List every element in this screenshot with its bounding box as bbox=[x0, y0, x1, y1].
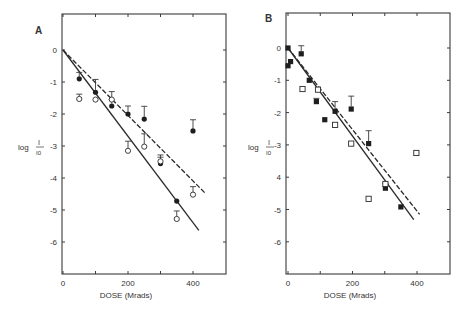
data-point-filled-square bbox=[285, 45, 290, 50]
data-point-open-square bbox=[332, 122, 337, 127]
y-axis-label-numerator: I bbox=[268, 139, 270, 146]
y-axis-label-numerator: I bbox=[38, 139, 40, 146]
y-axis-label-log: log bbox=[248, 143, 259, 152]
data-point-open-circle bbox=[158, 159, 163, 164]
data-point-filled-square bbox=[349, 106, 354, 111]
figure-svg: 02004000-1-2-3-4-5-6ADOSE (Mrads)logII0 … bbox=[0, 0, 469, 310]
y-axis-label-log: log bbox=[18, 143, 29, 152]
data-point-filled-square bbox=[307, 78, 312, 83]
x-tick-label: 0 bbox=[286, 279, 291, 288]
y-tick-label: 0 bbox=[277, 44, 282, 53]
y-tick-label: -6 bbox=[50, 238, 58, 247]
data-point-filled-circle bbox=[77, 76, 82, 81]
solid-fit-line bbox=[63, 50, 199, 230]
dashed-fit-line bbox=[63, 50, 205, 193]
solid-fit-line bbox=[288, 48, 414, 220]
y-axis-label-denominator: I0 bbox=[266, 150, 272, 156]
y-axis-label-denominator: I0 bbox=[36, 150, 42, 156]
y-tick-label: -1 bbox=[274, 76, 282, 85]
data-point-filled-square bbox=[332, 109, 337, 114]
x-tick-label: 200 bbox=[346, 279, 360, 288]
x-axis-label: DOSE (Mrads) bbox=[100, 291, 153, 300]
data-point-filled-circle bbox=[93, 90, 98, 95]
data-point-filled-square bbox=[299, 51, 304, 56]
data-point-filled-circle bbox=[190, 128, 195, 133]
data-point-open-circle bbox=[174, 216, 179, 221]
x-axis-label: DOSE (Mrads) bbox=[324, 291, 377, 300]
data-point-filled-square bbox=[288, 59, 293, 64]
x-tick-label: 400 bbox=[186, 279, 200, 288]
data-point-open-circle bbox=[77, 96, 82, 101]
data-point-filled-square bbox=[314, 99, 319, 104]
y-tick-label: -3 bbox=[50, 142, 58, 151]
data-point-open-circle bbox=[125, 148, 130, 153]
y-tick-label: -6 bbox=[274, 238, 282, 247]
data-point-open-circle bbox=[93, 97, 98, 102]
x-tick-label: 400 bbox=[410, 279, 424, 288]
y-tick-label: -2 bbox=[274, 109, 282, 118]
data-point-open-square bbox=[414, 150, 419, 155]
y-tick-label: -5 bbox=[50, 206, 58, 215]
data-point-open-circle bbox=[190, 192, 195, 197]
y-tick-label: -5 bbox=[274, 206, 282, 215]
data-point-open-square bbox=[315, 87, 320, 92]
y-tick-label: -2 bbox=[50, 110, 58, 119]
x-tick-label: 0 bbox=[61, 279, 66, 288]
panel-label: A bbox=[35, 25, 42, 36]
data-point-filled-circle bbox=[109, 103, 114, 108]
y-tick-label: 0 bbox=[53, 46, 58, 55]
data-point-filled-circle bbox=[125, 111, 130, 116]
y-tick-label: 4 bbox=[277, 173, 282, 182]
data-point-filled-square bbox=[398, 204, 403, 209]
data-point-open-square bbox=[300, 86, 305, 91]
panel-b-chart: 02004000-1-2-34-5-6BDOSE (Mrads)logII0 bbox=[248, 13, 450, 300]
dashed-fit-line bbox=[288, 48, 420, 214]
data-point-open-square bbox=[383, 181, 388, 186]
data-point-open-circle bbox=[109, 97, 114, 102]
panel-a-chart: 02004000-1-2-3-4-5-6ADOSE (Mrads)logII0 bbox=[18, 14, 226, 300]
x-tick-label: 200 bbox=[121, 279, 135, 288]
data-point-open-square bbox=[366, 196, 371, 201]
data-point-filled-circle bbox=[142, 117, 147, 122]
figure: 02004000-1-2-3-4-5-6ADOSE (Mrads)logII0 … bbox=[0, 0, 469, 310]
data-point-filled-circle bbox=[174, 198, 179, 203]
data-point-open-circle bbox=[142, 144, 147, 149]
data-point-filled-square bbox=[322, 117, 327, 122]
y-tick-label: -1 bbox=[50, 78, 58, 87]
data-point-filled-square bbox=[366, 141, 371, 146]
panel-label: B bbox=[265, 13, 272, 24]
y-tick-label: -4 bbox=[50, 174, 58, 183]
y-tick-label: -3 bbox=[274, 141, 282, 150]
data-point-open-square bbox=[349, 141, 354, 146]
